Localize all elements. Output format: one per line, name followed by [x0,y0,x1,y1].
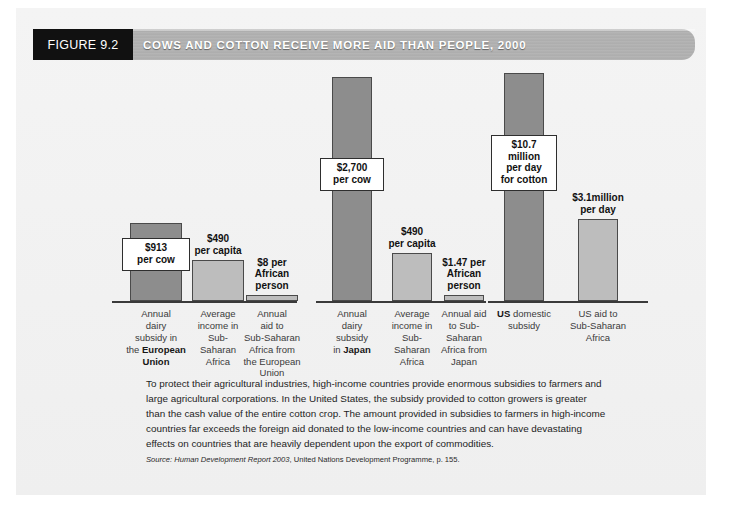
bar-value-label: $490 per capita [377,226,447,250]
chart-baseline [112,301,297,303]
bar-value-callout: $2,700 per cow [320,158,384,191]
bar [578,219,618,301]
bar [392,253,432,301]
bar-category-label: Annual aid to Sub-Saharan Africa from th… [235,304,309,366]
figure-caption-paragraph: To protect their agricultural industries… [146,376,608,451]
bar-chart: Annual dairy subsidy in the European Uni… [16,66,706,366]
figure-root: FIGURE 9.2 COWS AND COTTON RECEIVE MORE … [0,0,733,522]
bar [444,295,484,301]
bars-row: $913 per cow$490 per capita$8 per Africa… [112,66,297,301]
bar-group: Annual dairy subsidy in JapanAverage inc… [316,66,486,366]
bar-category-label: US domestic subsidy [493,304,555,366]
bar-value-label: $8 per African person [237,257,307,292]
chart-baseline [488,301,648,303]
bar-group: US domestic subsidyUS aid to Sub-Saharan… [488,66,648,366]
page-title: COWS AND COTTON RECEIVE MORE AID THAN PE… [143,29,526,60]
bar [246,295,298,301]
chart-baseline [316,301,486,303]
figure-number-tag: FIGURE 9.2 [33,29,133,60]
bar-value-label: $490 per capita [183,233,253,257]
bar-category-label: Annual dairy subsidy in Japan [321,304,383,366]
bar-category-label: US aid to Sub-Saharan Africa [567,304,629,366]
figure-source-line: Source: Human Development Report 2003, U… [146,455,616,465]
bar-value-label: $3.1million per day [563,192,633,216]
bar-category-label: Annual aid to Sub- Saharan Africa from J… [433,304,495,366]
bars-row: $10.7 million per day for cotton$3.1mill… [488,66,648,301]
bars-row: $2,700 per cow$490 per capita$1.47 per A… [316,66,486,301]
bar-value-callout: $913 per cow [122,238,190,271]
bar-value-callout: $10.7 million per day for cotton [491,135,557,191]
bar-group: Annual dairy subsidy in the European Uni… [112,66,297,366]
